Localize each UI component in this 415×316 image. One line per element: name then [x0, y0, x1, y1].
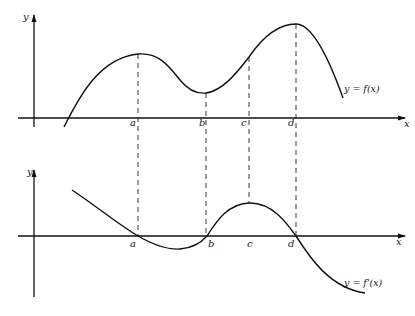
f-curve-label: y = f(x)	[343, 83, 380, 94]
bottom-x-axis-label: x	[396, 236, 402, 247]
top-tick-d: d	[288, 117, 294, 128]
bottom-tick-a: a	[130, 238, 136, 249]
top-y-axis-label: y	[22, 11, 29, 22]
top-tick-c: c	[241, 117, 247, 128]
bottom-tick-c: c	[247, 238, 253, 249]
bottom-y-axis-label: y	[26, 166, 33, 177]
f-prime-curve-label: y = f'(x)	[343, 277, 383, 288]
top-x-axis-label: x	[404, 118, 410, 129]
top-tick-a: a	[130, 117, 136, 128]
guide-lines	[138, 24, 296, 236]
top-graph: y x y = f(x) a b c d	[18, 11, 410, 129]
bottom-tick-b: b	[208, 238, 214, 249]
derivative-diagram: y x y = f(x) a b c d y x y = f'(x) a b c…	[0, 0, 415, 316]
f-prime-curve	[72, 190, 365, 293]
bottom-graph: y x y = f'(x) a b c d	[18, 166, 405, 297]
top-tick-b: b	[199, 117, 205, 128]
f-curve	[64, 24, 343, 127]
bottom-tick-d: d	[288, 238, 294, 249]
